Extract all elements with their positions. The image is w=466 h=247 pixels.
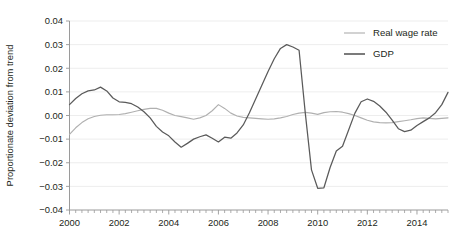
legend-label-gdp: GDP [373, 48, 394, 59]
y-tick-label: 0.02 [45, 63, 63, 74]
y-tick-label: 0.00 [45, 110, 63, 121]
y-axis-ticks [66, 21, 70, 210]
x-axis-tick-labels: 20002002200420062008201020122014 [59, 217, 427, 228]
x-tick-label: 2002 [109, 217, 130, 228]
x-tick-label: 2012 [357, 217, 378, 228]
x-tick-label: 2006 [208, 217, 229, 228]
y-tick-label: −0.04 [39, 204, 63, 215]
y-tick-label: −0.03 [39, 181, 63, 192]
y-axis-title: Proportionate deviation from trend [4, 45, 15, 187]
series-line-gdp [70, 45, 449, 189]
x-axis-ticks [70, 210, 449, 215]
x-tick-label: 2010 [307, 217, 328, 228]
x-tick-label: 2008 [258, 217, 279, 228]
line-chart: 0.040.030.020.010.00−0.01−0.02−0.03−0.04… [0, 0, 466, 247]
x-tick-label: 2004 [158, 217, 179, 228]
y-axis-tick-labels: 0.040.030.020.010.00−0.01−0.02−0.03−0.04 [39, 15, 63, 215]
x-tick-label: 2014 [407, 217, 428, 228]
y-tick-label: 0.04 [45, 15, 63, 26]
chart-legend: Real wage rateGDP [344, 27, 438, 59]
y-tick-label: 0.01 [45, 86, 63, 97]
legend-label-real-wage-rate: Real wage rate [373, 27, 438, 38]
data-series [70, 45, 449, 189]
y-tick-label: −0.01 [39, 133, 63, 144]
x-tick-label: 2000 [59, 217, 80, 228]
y-tick-label: −0.02 [39, 157, 63, 168]
chart-figure: 0.040.030.020.010.00−0.01−0.02−0.03−0.04… [0, 0, 466, 247]
gridlines [70, 21, 449, 186]
y-tick-label: 0.03 [45, 39, 63, 50]
